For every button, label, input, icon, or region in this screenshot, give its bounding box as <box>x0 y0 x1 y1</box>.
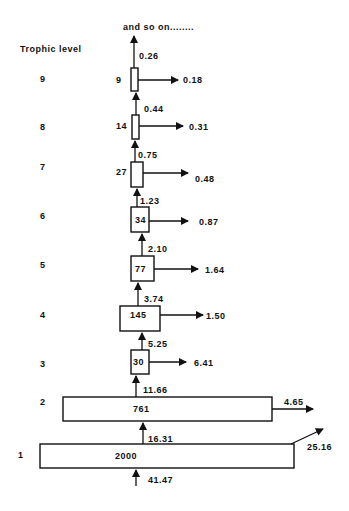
flow-value-7-8: 0.75 <box>138 150 158 160</box>
compartment-box-8 <box>132 115 139 139</box>
standing-value-3: 30 <box>133 357 144 367</box>
loss-value-3: 6.41 <box>194 358 214 368</box>
trophic-level-label-6: 6 <box>40 211 46 221</box>
flow-value-3-4: 5.25 <box>148 339 168 349</box>
trophic-level-label-1: 1 <box>18 450 24 460</box>
flow-value-6-7: 1.23 <box>140 196 160 206</box>
loss-value-1: 25.16 <box>307 442 332 452</box>
loss-value-7: 0.48 <box>195 174 215 184</box>
standing-value-6: 34 <box>135 215 146 225</box>
flow-value-8-9: 0.44 <box>144 104 164 114</box>
standing-value-7: 27 <box>116 167 127 177</box>
loss-value-5: 1.64 <box>205 265 225 275</box>
and-so-on-note: and so on........ <box>123 22 194 32</box>
trophic-level-label-2: 2 <box>40 397 46 407</box>
trophic-level-label-5: 5 <box>40 260 46 270</box>
standing-value-4: 145 <box>130 310 147 320</box>
flow-value-5-6: 2.10 <box>148 244 168 254</box>
compartment-box-2 <box>63 397 272 421</box>
flow-value-4-5: 3.74 <box>144 294 164 304</box>
standing-value-1: 2000 <box>115 451 137 461</box>
loss-value-4: 1.50 <box>206 311 226 321</box>
flow-value-9-up: 0.26 <box>139 51 159 61</box>
trophic-level-label-8: 8 <box>40 122 46 132</box>
trophic-level-label-3: 3 <box>40 359 46 369</box>
trophic-level-header: Trophic level <box>20 44 82 54</box>
trophic-level-label-9: 9 <box>40 74 46 84</box>
loss-value-2: 4.65 <box>284 397 304 407</box>
loss-value-8: 0.31 <box>189 122 209 132</box>
standing-value-2: 761 <box>133 404 150 414</box>
standing-value-5: 77 <box>135 264 146 274</box>
trophic-level-label-4: 4 <box>40 310 46 320</box>
compartment-box-7 <box>131 162 143 187</box>
loss-value-9: 0.18 <box>183 75 203 85</box>
compartment-box-9 <box>131 68 138 91</box>
trophic-level-label-7: 7 <box>40 162 46 172</box>
loss-value-6: 0.87 <box>199 217 219 227</box>
flow-value-2-3: 11.66 <box>143 385 168 395</box>
standing-value-8: 14 <box>116 121 127 131</box>
flow-value-1-2: 16.31 <box>148 434 173 444</box>
energy-flow-diagram: Trophic level and so on........ 0.26 9 9… <box>0 0 349 511</box>
compartment-box-1 <box>40 444 294 468</box>
standing-value-9: 9 <box>116 75 122 85</box>
source-input-value: 41.47 <box>148 475 173 485</box>
